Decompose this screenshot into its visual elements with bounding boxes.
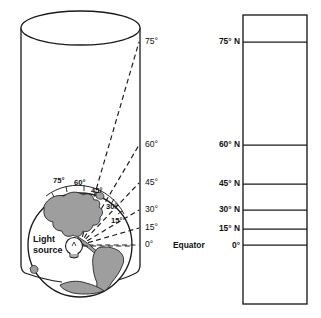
globe-angle-label-30deg: 30° — [106, 203, 117, 211]
light-source-label-line1: Light — [33, 234, 63, 245]
landmass-south-america — [93, 247, 124, 292]
panel-label-30n: 30° N — [190, 205, 240, 213]
cylinder-label-15deg: 15° — [145, 223, 158, 232]
cylinder-top-ellipse — [21, 11, 140, 45]
cylinder-label-45deg: 45° — [145, 178, 158, 187]
panel-label-75n: 75° N — [190, 37, 240, 45]
cylinder-label-60deg: 60° — [145, 140, 158, 149]
globe-angle-label-60deg: 60° — [74, 179, 85, 187]
light-source-label-line2: source — [33, 245, 63, 256]
panel-label-45n: 45° N — [190, 179, 240, 187]
mercator-projection-diagram: 75° 60° 45° 30° 15° 0° 75° 60° 45° 30° 1… — [0, 0, 321, 318]
cylinder-left-edge — [21, 28, 25, 273]
panel-label-equator: 0° — [190, 241, 240, 249]
diagram-canvas — [0, 0, 321, 318]
cylinder-label-75deg: 75° — [145, 37, 158, 46]
globe-angle-label-15deg: 15° — [111, 217, 122, 225]
light-source-label: Light source — [33, 234, 63, 256]
globe-angle-label-45deg: 45° — [91, 187, 102, 195]
globe-angle-label-75deg: 75° — [53, 177, 64, 185]
panel-label-60n: 60° N — [190, 140, 240, 148]
cylinder-right-edge — [136, 28, 140, 273]
panel-label-15n: 15° N — [190, 224, 240, 232]
landmass-west-limb-island — [30, 265, 38, 273]
cylinder-label-0deg: 0° — [145, 240, 153, 249]
unrolled-map-panel — [243, 15, 307, 304]
panel-border — [243, 15, 307, 304]
cylinder-label-30deg: 30° — [145, 205, 158, 214]
